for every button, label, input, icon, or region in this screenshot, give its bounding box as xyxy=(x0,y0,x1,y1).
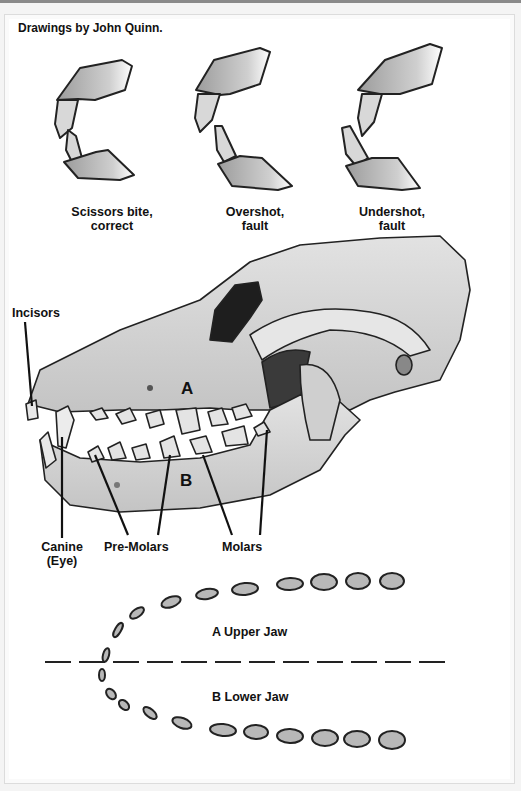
label-premolars: Pre-Molars xyxy=(104,540,169,554)
label-canine-line1: Canine xyxy=(32,540,92,554)
dog-skull-drawing xyxy=(26,236,470,512)
bite-label-overshot-line2: fault xyxy=(205,219,305,233)
label-incisors: Incisors xyxy=(12,306,60,320)
bite-label-undershot-line2: fault xyxy=(342,219,442,233)
region-label-a: A xyxy=(181,382,193,396)
label-canine: Canine (Eye) xyxy=(32,540,92,568)
bite-label-scissors: Scissors bite, correct xyxy=(52,205,172,233)
dog-dentition-illustration xyxy=(0,0,521,791)
label-molars: Molars xyxy=(222,540,262,554)
incisors-leader xyxy=(25,322,32,406)
bite-label-scissors-line2: correct xyxy=(52,219,172,233)
overshot-bite-drawing xyxy=(195,48,292,190)
bite-label-overshot-line1: Overshot, xyxy=(205,205,305,219)
bite-label-undershot-line1: Undershot, xyxy=(342,205,442,219)
label-lower-jaw: B Lower Jaw xyxy=(212,690,288,704)
bite-label-scissors-line1: Scissors bite, xyxy=(52,205,172,219)
undershot-bite-drawing xyxy=(342,44,442,190)
label-upper-jaw: A Upper Jaw xyxy=(212,625,287,639)
label-canine-line2: (Eye) xyxy=(32,554,92,568)
region-label-b: B xyxy=(180,474,192,488)
scissors-bite-drawing xyxy=(55,60,134,180)
bite-label-undershot: Undershot, fault xyxy=(342,205,442,233)
bite-label-overshot: Overshot, fault xyxy=(205,205,305,233)
jaw-arch-diagram xyxy=(45,573,452,749)
